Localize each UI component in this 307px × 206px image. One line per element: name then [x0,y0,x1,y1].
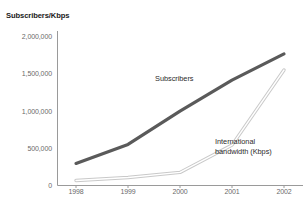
series-line-international-bandwidth [76,70,284,181]
series-annotation-subscribers-text: Subscribers [155,74,193,83]
series-annotation-bandwidth-line2: bandwidth (Kbps) [215,147,272,156]
series-annotation-international-bandwidth: International bandwidth (Kbps) [215,137,272,156]
series-line-international-bandwidth-inner [76,70,284,181]
chart-figure: Subscribers/Kbps 2,000,000 1,500,000 1,0… [0,0,307,206]
series-annotation-subscribers: Subscribers [155,74,193,84]
series-annotation-bandwidth-line1: International [215,137,255,146]
plot-area [0,0,307,206]
